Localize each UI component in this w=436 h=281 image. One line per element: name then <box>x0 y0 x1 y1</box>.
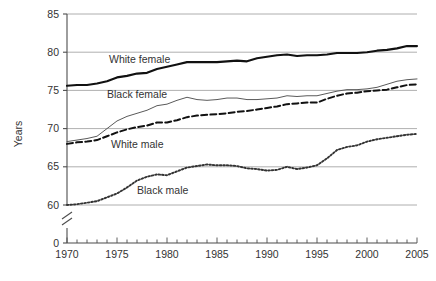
series-label-black-male: Black male <box>137 184 189 196</box>
x-tick-label: 1985 <box>205 248 229 260</box>
series-label-white-female: White female <box>109 53 170 65</box>
life-expectancy-chart: 8580757065600 19701975198019851990199520… <box>0 0 436 281</box>
gridlines <box>67 14 417 205</box>
y-axis-ticks <box>63 14 67 243</box>
series-label-white-male: White male <box>111 138 164 150</box>
x-axis-major-ticks <box>67 238 417 244</box>
y-tick-label: 85 <box>47 8 59 20</box>
y-tick-label: 70 <box>47 122 59 134</box>
x-tick-label: 1975 <box>105 248 129 260</box>
axis-break-icon <box>62 212 72 225</box>
y-tick-label: 0 <box>53 237 59 249</box>
x-tick-label: 1990 <box>255 248 279 260</box>
x-tick-label: 1995 <box>305 248 329 260</box>
series-label-black-female: Black female <box>107 88 167 100</box>
x-axis-tick-labels: 19701975198019851990199520002005 <box>55 248 429 260</box>
y-tick-label: 80 <box>47 46 59 58</box>
series-lines <box>67 46 417 205</box>
x-tick-label: 2005 <box>405 248 429 260</box>
y-tick-label: 65 <box>47 160 59 172</box>
chart-svg: 8580757065600 19701975198019851990199520… <box>0 0 436 281</box>
x-tick-label: 2000 <box>355 248 379 260</box>
x-tick-label: 1980 <box>155 248 179 260</box>
y-axis-title: Years <box>12 121 24 147</box>
y-tick-label: 75 <box>47 84 59 96</box>
x-tick-label: 1970 <box>55 248 79 260</box>
y-tick-label: 60 <box>47 199 59 211</box>
y-axis-tick-labels: 8580757065600 <box>47 8 59 249</box>
